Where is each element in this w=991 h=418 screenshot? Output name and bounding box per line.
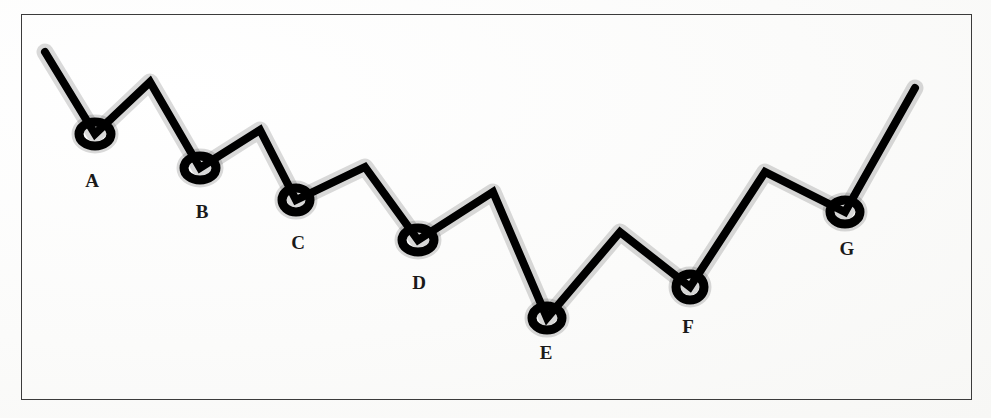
vertex-label-d: D: [412, 272, 426, 294]
vertex-label-a: A: [85, 170, 99, 192]
vertex-label-f: F: [682, 316, 694, 338]
vertex-label-c: C: [291, 232, 305, 254]
series-zigzag-polyline: [45, 52, 915, 318]
zigzag-line-chart: [0, 0, 991, 418]
figure-page: ABCDEFG: [0, 0, 991, 418]
vertex-label-e: E: [540, 342, 553, 364]
vertex-label-g: G: [840, 238, 855, 260]
vertex-label-b: B: [196, 201, 209, 223]
minimum-markers-group: [75, 118, 864, 334]
